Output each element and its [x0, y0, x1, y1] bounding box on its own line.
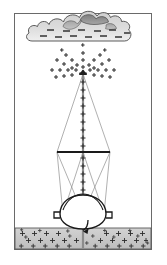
dome-shell: [60, 195, 106, 229]
diagram-svg: [0, 0, 167, 265]
figure-canvas: Corona discharge from a grounded guyed m…: [0, 0, 167, 265]
mast-tip-block: [79, 73, 87, 75]
